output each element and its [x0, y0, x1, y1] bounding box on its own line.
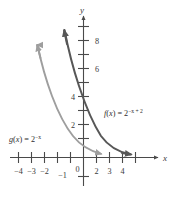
- x-tick-label-neg4: −4: [14, 167, 23, 176]
- x-tick-label-3: 3: [107, 167, 111, 176]
- function-f-equals: =: [115, 109, 124, 118]
- function-g-exponent: −x: [35, 134, 41, 140]
- x-tick-label-2: 2: [94, 167, 98, 176]
- x-tick-label-neg2: −2: [40, 167, 49, 176]
- y-tick-label-8: 8: [95, 37, 99, 46]
- function-g-equals: =: [22, 135, 31, 144]
- y-tick-label-6: 6: [95, 65, 99, 74]
- function-label-g: g(x) = 2−x: [9, 134, 41, 144]
- y-tick-label-2: 2: [71, 121, 75, 130]
- x-tick-label-neg3: −3: [27, 167, 36, 176]
- x-axis-label: x: [162, 153, 167, 163]
- exponential-functions-figure: y x −4 −3 −2 −1 0 2 3 4 2 4 6 8 f(x) = 2…: [0, 0, 176, 201]
- y-axis-label: y: [79, 5, 84, 15]
- x-tick-label-neg1: −1: [58, 171, 67, 180]
- function-label-f: f(x) = 2−x + 2: [104, 108, 143, 118]
- function-f-exponent: −x + 2: [128, 108, 143, 114]
- y-tick-label-4: 4: [71, 93, 75, 102]
- curve-g-series: [37, 45, 101, 154]
- origin-label: 0: [75, 165, 79, 174]
- x-tick-label-4: 4: [120, 167, 124, 176]
